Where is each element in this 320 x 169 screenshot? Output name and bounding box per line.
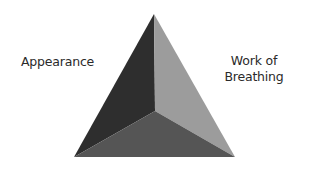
work-of-breathing-line1: Work of [222,53,286,69]
appearance-label: Appearance [21,54,94,70]
work-of-breathing-label: Work of Breathing [222,53,286,85]
work-of-breathing-line2: Breathing [222,69,286,85]
